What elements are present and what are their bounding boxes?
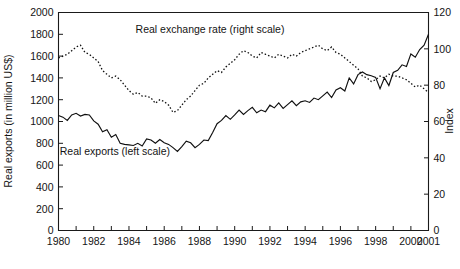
y-axis-left-tick-label: 800 (36, 137, 54, 149)
y-axis-left-tick-label: 1800 (30, 28, 54, 40)
annotation-real-exchange-rate: Real exchange rate (right scale) (136, 23, 285, 35)
y-axis-right-tick-label: 100 (434, 43, 452, 55)
x-axis-tick-label: 1998 (364, 235, 388, 247)
x-axis-tick-label: 1988 (188, 235, 212, 247)
y-axis-right-tick-label: 80 (434, 79, 446, 91)
x-axis-tick-label: 1986 (153, 235, 177, 247)
x-axis-tick-label: 1994 (293, 235, 317, 247)
x-axis-tick-label: 1990 (223, 235, 247, 247)
y-axis-right-tick-label: 120 (434, 6, 452, 18)
dual-axis-line-chart: 0200400600800100012001400160018002000 02… (0, 0, 460, 269)
y-axis-left-title: Real exports (in million US$) (2, 54, 14, 187)
y-axis-right-tick-label: 20 (434, 188, 446, 200)
annotation-real-exports: Real exports (left scale) (60, 145, 170, 157)
y-axis-left-tick-label: 1400 (30, 72, 54, 84)
chart-background (0, 0, 460, 269)
y-axis-left-tick-label: 1200 (30, 94, 54, 106)
y-axis-left-tick-label: 400 (36, 181, 54, 193)
y-axis-left-tick-label: 1600 (30, 50, 54, 62)
x-axis-tick-label: 1980 (47, 235, 71, 247)
y-axis-right-title: Index (443, 107, 455, 133)
x-axis-tick-label: 1984 (117, 235, 141, 247)
x-axis-tick-label: 2001 (417, 235, 441, 247)
x-axis-tick-label: 1996 (329, 235, 353, 247)
x-axis-tick-label: 1982 (82, 235, 106, 247)
x-axis-tick-label: 1992 (258, 235, 282, 247)
y-axis-left-tick-label: 2000 (30, 6, 54, 18)
y-axis-left-tick-label: 200 (36, 203, 54, 215)
chart-figure: 0200400600800100012001400160018002000 02… (0, 0, 460, 269)
y-axis-right-tick-label: 40 (434, 152, 446, 164)
y-axis-left-tick-label: 1000 (30, 115, 54, 127)
y-axis-left-tick-label: 600 (36, 159, 54, 171)
